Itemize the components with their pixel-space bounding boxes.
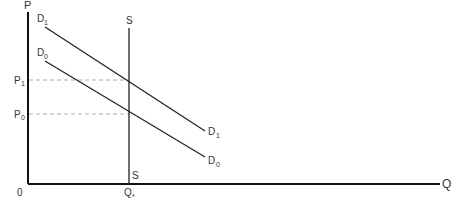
d1-bottom-label: D 1 bbox=[208, 126, 220, 139]
svg-text:P: P bbox=[14, 75, 21, 86]
q-star-label: Q * bbox=[124, 187, 135, 200]
supply-top-label: S bbox=[126, 15, 133, 26]
svg-text:0: 0 bbox=[216, 161, 220, 168]
svg-text:D: D bbox=[208, 155, 215, 166]
svg-text:0: 0 bbox=[21, 114, 25, 121]
svg-text:1: 1 bbox=[44, 19, 48, 26]
d1-top-label: D 1 bbox=[37, 13, 48, 26]
demand-curve-d0 bbox=[45, 61, 205, 157]
supply-demand-diagram: P Q 0 P 1 P 0 S S Q * D 1 D 1 D 0 D 0 bbox=[0, 0, 453, 203]
svg-text:Q: Q bbox=[124, 187, 132, 198]
x-axis-label: Q bbox=[442, 177, 451, 191]
d0-top-label: D 0 bbox=[37, 47, 48, 60]
demand-curve-d1 bbox=[45, 27, 205, 131]
svg-text:*: * bbox=[132, 193, 135, 200]
supply-bottom-label: S bbox=[132, 170, 139, 181]
svg-text:1: 1 bbox=[216, 132, 220, 139]
y-axis-label: P bbox=[24, 0, 31, 11]
svg-text:1: 1 bbox=[21, 80, 25, 87]
svg-text:0: 0 bbox=[44, 53, 48, 60]
svg-text:P: P bbox=[14, 109, 21, 120]
svg-text:D: D bbox=[208, 126, 215, 137]
p0-label: P 0 bbox=[14, 109, 25, 121]
p1-label: P 1 bbox=[14, 75, 25, 87]
d0-bottom-label: D 0 bbox=[208, 155, 220, 168]
origin-label: 0 bbox=[17, 187, 23, 198]
